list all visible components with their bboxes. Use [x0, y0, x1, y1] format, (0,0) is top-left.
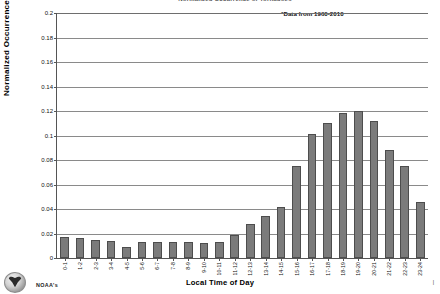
y-axis-tick-label: 0.08 — [41, 157, 53, 163]
bar — [400, 166, 409, 258]
bar-slot: 19-20 — [351, 13, 366, 258]
plot-area: 00.020.040.060.080.10.120.140.160.180.2 … — [56, 13, 428, 259]
x-axis-tick-label: 3-4 — [108, 262, 114, 270]
bar — [122, 247, 131, 258]
noaa-seal-logo — [4, 272, 26, 293]
x-axis-tick-label: 7-8 — [170, 262, 176, 270]
x-axis-tick-mark — [266, 258, 267, 261]
bar-slot: 16-17 — [304, 13, 319, 258]
x-axis-tick-mark — [405, 258, 406, 261]
bar — [308, 134, 317, 258]
x-axis-tick-mark — [297, 258, 298, 261]
y-axis-tick-label: 0.18 — [41, 35, 53, 41]
bar-slot: 17-18 — [320, 13, 335, 258]
bar — [246, 224, 255, 258]
x-axis-tick-mark — [235, 258, 236, 261]
x-axis-tick-label: 17-18 — [325, 262, 331, 276]
bar — [230, 235, 239, 258]
bar-slot: 6-7 — [150, 13, 165, 258]
y-axis-tick-label: 0.02 — [41, 231, 53, 237]
y-axis-tick-label: 0 — [50, 255, 53, 261]
x-axis-tick-mark — [96, 258, 97, 261]
bar-slot: 11-12 — [227, 13, 242, 258]
bar-slot: 15-16 — [289, 13, 304, 258]
bar-slot: 12-13 — [243, 13, 258, 258]
chart-page: Normalized Occurrence of Tornadoes *Data… — [0, 0, 440, 294]
bar-slot: 8-9 — [181, 13, 196, 258]
x-axis-tick-mark — [389, 258, 390, 261]
bar-slot: 13-14 — [258, 13, 273, 258]
bar — [60, 237, 69, 258]
x-axis-tick-mark — [250, 258, 251, 261]
x-axis-tick-mark — [111, 258, 112, 261]
x-axis-title: Local Time of Day — [0, 278, 440, 287]
bar-slot: 10-11 — [212, 13, 227, 258]
y-axis-tick-label: 0.12 — [41, 108, 53, 114]
corner-mark: | — [433, 279, 434, 285]
y-axis-tick-label: 0.06 — [41, 182, 53, 188]
bar — [416, 202, 425, 258]
bar — [184, 242, 193, 258]
bar — [277, 207, 286, 258]
x-axis-tick-label: 4-5 — [124, 262, 130, 270]
bar — [339, 113, 348, 258]
y-axis-tick-label: 0.1 — [45, 133, 53, 139]
x-axis-tick-label: 23-24 — [417, 262, 423, 276]
y-axis-tick-label: 0.2 — [45, 10, 53, 16]
bar-slot: 18-19 — [335, 13, 350, 258]
bar-series: 0-11-22-33-44-55-66-77-88-99-1010-1111-1… — [57, 13, 428, 258]
bar — [370, 121, 379, 258]
x-axis-tick-label: 13-14 — [263, 262, 269, 276]
x-axis-tick-mark — [281, 258, 282, 261]
x-axis-tick-mark — [312, 258, 313, 261]
bar-slot: 14-15 — [273, 13, 288, 258]
bar-slot: 22-23 — [397, 13, 412, 258]
x-axis-tick-mark — [173, 258, 174, 261]
x-axis-tick-mark — [343, 258, 344, 261]
bar — [76, 238, 85, 258]
bar-slot: 1-2 — [72, 13, 87, 258]
bar — [200, 243, 209, 258]
x-axis-tick-label: 0-1 — [62, 262, 68, 270]
x-axis-tick-label: 10-11 — [216, 262, 222, 275]
x-axis-tick-label: 8-9 — [185, 262, 191, 270]
x-axis-tick-mark — [127, 258, 128, 261]
x-axis-tick-mark — [65, 258, 66, 261]
bar-slot: 3-4 — [103, 13, 118, 258]
x-axis-tick-label: 12-13 — [247, 262, 253, 276]
x-axis-tick-label: 1-2 — [77, 262, 83, 270]
y-axis-tick-mark — [54, 258, 57, 259]
bar — [323, 123, 332, 258]
bar — [138, 242, 147, 258]
x-axis-tick-mark — [157, 258, 158, 261]
bar — [107, 241, 116, 258]
bar — [169, 242, 178, 258]
x-axis-tick-mark — [204, 258, 205, 261]
bar-slot: 7-8 — [165, 13, 180, 258]
x-axis-tick-mark — [358, 258, 359, 261]
bar — [91, 240, 100, 258]
bar-slot: 9-10 — [196, 13, 211, 258]
bar-slot: 0-1 — [57, 13, 72, 258]
logo-caption: NOAA's — [36, 282, 58, 288]
x-axis-tick-label: 14-15 — [278, 262, 284, 276]
bar-slot: 23-24 — [413, 13, 428, 258]
x-axis-tick-label: 6-7 — [154, 262, 160, 270]
x-axis-tick-label: 18-19 — [340, 262, 346, 276]
bar-slot: 2-3 — [88, 13, 103, 258]
x-axis-tick-mark — [328, 258, 329, 261]
bar-slot: 4-5 — [119, 13, 134, 258]
bar — [385, 150, 394, 258]
x-axis-tick-mark — [219, 258, 220, 261]
x-axis-tick-label: 21-22 — [386, 262, 392, 276]
bar — [354, 111, 363, 258]
x-axis-tick-label: 19-20 — [355, 262, 361, 276]
x-axis-tick-mark — [374, 258, 375, 261]
x-axis-tick-mark — [142, 258, 143, 261]
x-axis-tick-mark — [188, 258, 189, 261]
x-axis-tick-label: 9-10 — [201, 262, 207, 273]
y-axis-tick-label: 0.04 — [41, 206, 53, 212]
x-axis-tick-label: 20-21 — [371, 262, 377, 276]
x-axis-tick-mark — [80, 258, 81, 261]
bar — [215, 242, 224, 258]
